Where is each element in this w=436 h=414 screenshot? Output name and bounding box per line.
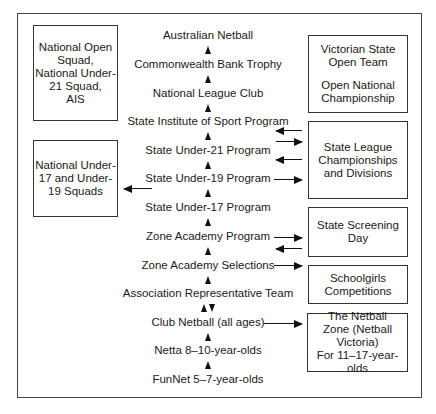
arrow-up-icon — [205, 189, 211, 197]
box-line: Zone (Netball — [323, 323, 392, 336]
box-line: For 11–17-year-olds — [308, 349, 407, 375]
arrow-up-icon — [205, 247, 211, 255]
box-line: National Under- — [35, 159, 116, 172]
box-line: Schoolgirls — [330, 272, 386, 285]
arrow-right-icon — [274, 237, 302, 238]
arrow-up-icon — [205, 132, 211, 140]
box-line: 21 Squad, — [49, 80, 101, 93]
node-commonwealth-bank-trophy: Commonwealth Bank Trophy — [108, 58, 308, 71]
box-line: State League — [324, 141, 392, 154]
arrow-up-icon — [205, 46, 211, 54]
arrow-left-icon — [276, 248, 302, 249]
box-line: 17 and Under- — [39, 172, 113, 185]
arrow-right-icon — [264, 323, 302, 324]
box-state-screening-day: State Screening Day — [308, 207, 408, 257]
node-national-league-club: National League Club — [108, 87, 308, 100]
box-national-open-squad: National Open Squad, National Under- 21 … — [33, 25, 118, 121]
box-schoolgirls-competitions: Schoolgirls Competitions — [308, 265, 408, 304]
arrow-right-icon — [274, 265, 302, 266]
box-line: Day — [348, 232, 368, 245]
box-line: State Screening — [317, 219, 399, 232]
box-line: The Netball — [328, 310, 387, 323]
arrow-up-icon — [205, 218, 211, 226]
arrow-up-icon — [205, 104, 211, 112]
arrow-up-icon — [205, 361, 211, 369]
box-line: Competitions — [324, 285, 391, 298]
arrow-left-icon — [276, 159, 302, 160]
box-line: Squad, — [57, 54, 93, 67]
box-line: Open Team — [328, 56, 387, 69]
box-line: Victoria) — [337, 336, 379, 349]
arrow-up-icon — [205, 276, 211, 284]
box-line: 19 Squads — [48, 185, 103, 198]
box-line: and Divisions — [324, 167, 392, 180]
node-australian-netball: Australian Netball — [108, 29, 308, 42]
box-line: AIS — [66, 93, 85, 106]
arrow-down-icon — [209, 304, 215, 312]
arrow-left-icon — [124, 188, 152, 189]
arrow-up-icon — [205, 161, 211, 169]
box-line: National Open — [39, 41, 113, 54]
node-state-under-17: State Under-17 Program — [108, 201, 308, 214]
arrow-right-icon — [274, 179, 302, 180]
box-line: Championships — [318, 154, 397, 167]
box-line: Championship — [321, 92, 395, 105]
arrow-up-icon — [201, 304, 207, 312]
arrow-up-icon — [205, 75, 211, 83]
arrow-up-icon — [205, 333, 211, 341]
box-netball-zone: The Netball Zone (Netball Victoria) For … — [307, 313, 408, 372]
node-association-representative-team: Association Representative Team — [108, 287, 308, 300]
node-funnet: FunNet 5–7-year-olds — [108, 373, 308, 386]
arrow-left-icon — [276, 130, 302, 131]
node-netta: Netta 8–10-year-olds — [108, 344, 308, 357]
box-national-u17-u19-squads: National Under- 17 and Under- 19 Squads — [33, 140, 118, 217]
arrow-right-icon — [276, 141, 302, 142]
box-victorian-state-open-team: Victorian State Open Team Open National … — [308, 35, 408, 113]
box-line: National Under- — [35, 67, 116, 80]
box-line: Victorian State — [321, 43, 396, 56]
box-state-league-championships: State League Championships and Divisions — [308, 121, 408, 199]
box-line: Open National — [321, 79, 395, 92]
